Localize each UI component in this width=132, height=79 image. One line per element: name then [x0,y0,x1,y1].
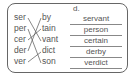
answer-line: servant [70,14,122,25]
answer-line: certain [70,36,122,47]
answer-line: verdict [70,58,122,69]
answer-line: person [70,25,122,36]
exercise-letter: d. [73,4,80,13]
answer-line: derby [70,47,122,58]
